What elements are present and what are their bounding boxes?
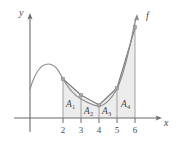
marker-x5 — [115, 86, 118, 89]
area-label-a4: A4 — [121, 100, 130, 110]
x-tick-marks — [63, 118, 135, 123]
area-label-a1-index: 1 — [72, 103, 75, 110]
x-tick-label-3: 3 — [75, 126, 87, 135]
y-axis-label: y — [19, 8, 23, 18]
marker-x6 — [133, 26, 136, 29]
x-tick-label-5: 5 — [111, 126, 123, 135]
area-label-a1-letter: A — [66, 99, 72, 109]
marker-x2 — [61, 77, 64, 80]
area-label-a4-letter: A — [121, 99, 127, 109]
area-label-a2-letter: A — [84, 106, 90, 116]
area-label-a2-index: 2 — [90, 110, 93, 117]
area-label-a4-index: 4 — [127, 103, 130, 110]
y-axis — [27, 13, 32, 132]
area-under-curve-diagram — [0, 0, 180, 151]
area-label-a3-index: 3 — [108, 110, 111, 117]
area-label-a2: A2 — [84, 107, 93, 117]
x-tick-label-6: 6 — [129, 126, 141, 135]
x-tick-label-4: 4 — [93, 126, 105, 135]
marker-x3 — [79, 93, 82, 96]
x-axis-label: x — [164, 118, 168, 128]
area-label-a1: A1 — [66, 100, 75, 110]
function-curve-label: f — [146, 11, 149, 21]
area-label-a3: A3 — [102, 107, 111, 117]
figure-container: y x f 2 3 4 5 6 A1 A2 A3 A4 — [0, 0, 180, 151]
marker-x4 — [97, 104, 100, 107]
area-label-a3-letter: A — [102, 106, 108, 116]
x-tick-label-2: 2 — [57, 126, 69, 135]
